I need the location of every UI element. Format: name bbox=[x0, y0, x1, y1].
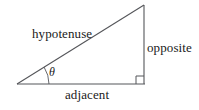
theta-angle-label: θ bbox=[49, 66, 55, 79]
hypotenuse-label: hypotenuse bbox=[32, 27, 92, 40]
adjacent-label: adjacent bbox=[65, 88, 109, 101]
right-angle-marker-icon bbox=[136, 76, 144, 84]
triangle-diagram: hypotenuse opposite adjacent θ bbox=[0, 0, 199, 110]
hypotenuse-line bbox=[17, 5, 144, 84]
opposite-label: opposite bbox=[147, 41, 192, 54]
